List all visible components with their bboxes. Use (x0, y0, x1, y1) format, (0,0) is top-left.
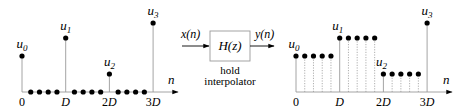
right-axis-label: n (443, 72, 450, 87)
held-dot (293, 53, 298, 58)
held-dot (346, 35, 351, 40)
output-signal-label: y(n) (254, 27, 274, 41)
held-dot (328, 53, 333, 58)
upsampled-sequence-plot: n u0u1u2u3 0D2D3D (17, 3, 179, 109)
tick-label: 3D (146, 95, 161, 109)
sample-dot (107, 71, 112, 76)
zero-sample-dot (28, 89, 33, 94)
held-dot (407, 71, 412, 76)
zero-sample-dot (54, 89, 59, 94)
sample-label: u1 (60, 18, 71, 35)
held-output-plot: n u0u1u2u3 0D2D3D (289, 3, 453, 109)
tick-label: D (60, 95, 70, 109)
held-dot (320, 53, 325, 58)
tick-label: D (334, 95, 344, 109)
held-dot (381, 71, 386, 76)
held-dot (311, 53, 316, 58)
sample-label: u2 (104, 54, 116, 71)
held-dot (398, 71, 403, 76)
left-axis-label: n (168, 72, 175, 87)
sample-label: u3 (148, 3, 160, 20)
tick-label: 2D (376, 95, 391, 109)
held-dot (302, 53, 307, 58)
hold-interpolator-diagram: n u0u1u2u3 0D2D3D x(n) H(z) y(n) hold in… (0, 0, 463, 112)
caption-interpolator: interpolator (204, 75, 256, 87)
held-dot (425, 20, 430, 25)
zero-sample-dot (37, 89, 42, 94)
held-dot (337, 35, 342, 40)
held-dot (372, 35, 377, 40)
zero-sample-dot (89, 89, 94, 94)
sample-label: u3 (422, 3, 434, 20)
zero-sample-dot (72, 89, 77, 94)
zero-sample-dot (116, 89, 121, 94)
hold-interpolator-block: x(n) H(z) y(n) hold interpolator (180, 27, 274, 87)
sample-dot (151, 20, 156, 25)
input-signal-label: x(n) (180, 27, 200, 41)
transfer-function-label: H(z) (217, 38, 241, 53)
sample-label: u2 (376, 54, 388, 71)
sample-dot (19, 53, 24, 58)
zero-sample-dot (81, 89, 86, 94)
held-dot (355, 35, 360, 40)
zero-sample-dot (142, 89, 147, 94)
sample-label: u1 (332, 18, 343, 35)
tick-label: 0 (19, 95, 25, 109)
tick-label: 3D (420, 95, 435, 109)
zero-sample-dot (133, 89, 138, 94)
sample-label: u0 (17, 36, 29, 53)
sample-label: u0 (289, 36, 301, 53)
held-dot (390, 71, 395, 76)
sample-dot (63, 35, 68, 40)
zero-sample-dot (98, 89, 103, 94)
zero-sample-dot (124, 89, 129, 94)
held-dot (416, 71, 421, 76)
tick-label: 0 (293, 95, 299, 109)
zero-sample-dot (46, 89, 51, 94)
tick-label: 2D (102, 95, 117, 109)
held-dot (363, 35, 368, 40)
